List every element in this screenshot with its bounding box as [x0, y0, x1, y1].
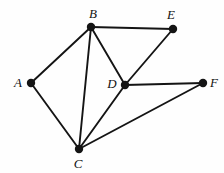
graph-vertex-f: [199, 79, 207, 87]
vertex-label-d: D: [107, 77, 116, 90]
vertex-label-b: B: [89, 7, 97, 20]
graph-edge-a-b: [31, 27, 91, 83]
graph-vertex-c: [75, 145, 83, 153]
graph-vertex-a: [27, 79, 35, 87]
graph-edge-b-c: [79, 27, 91, 149]
vertex-label-c: C: [74, 157, 83, 170]
graph-edge-c-d: [79, 85, 125, 149]
graph-edge-a-c: [31, 83, 79, 149]
graph-vertex-e: [169, 25, 177, 33]
graph-edge-c-f: [79, 83, 203, 149]
edges-group: [31, 27, 203, 149]
graph-vertex-b: [87, 23, 95, 31]
vertex-label-a: A: [14, 76, 22, 89]
graph-edge-d-f: [125, 83, 203, 85]
vertices-group: [27, 23, 207, 153]
graph-edge-b-e: [91, 27, 173, 29]
graph-figure: ABCDEF: [0, 0, 224, 173]
vertex-label-f: F: [210, 76, 218, 89]
graph-edge-d-e: [125, 29, 173, 85]
vertex-label-e: E: [167, 8, 175, 21]
graph-vertex-d: [121, 81, 129, 89]
